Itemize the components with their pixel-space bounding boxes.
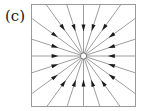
panel-label: (c) [5,9,25,24]
figure-panel: (c) [0,0,142,111]
equilibrium-point-marker [80,53,86,59]
